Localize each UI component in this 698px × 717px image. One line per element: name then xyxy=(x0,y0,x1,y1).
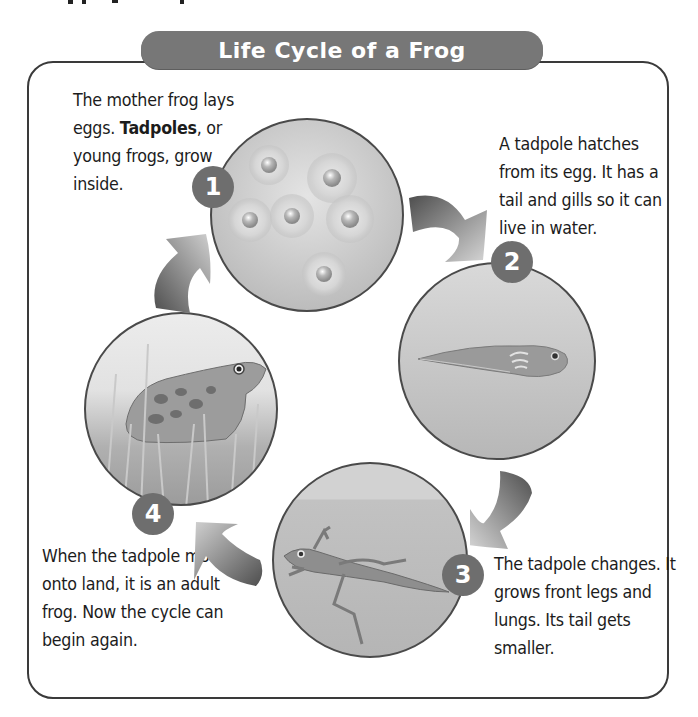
froglet-illustration xyxy=(274,464,468,658)
curved-arrow-icon xyxy=(148,228,238,338)
curved-arrow-icon xyxy=(192,520,272,590)
curved-arrow-icon xyxy=(470,465,540,555)
tadpole-illustration xyxy=(400,264,596,460)
page-title: Life Cycle of a Frog xyxy=(218,38,466,63)
step-4-badge: 4 xyxy=(132,493,174,535)
vocab-term-tadpoles: Tadpoles xyxy=(120,117,197,138)
step-2-caption: A tadpole hatches from its egg. It has a… xyxy=(499,130,671,242)
step-2-image xyxy=(398,262,596,460)
adult-frog-illustration xyxy=(86,314,278,506)
step-1-badge: 1 xyxy=(192,166,234,208)
step-3-image xyxy=(272,462,468,658)
curved-arrow-icon xyxy=(405,190,500,280)
title-banner: Life Cycle of a Frog xyxy=(141,31,543,69)
cut-off-heading-fragment xyxy=(0,0,698,6)
step-3-badge: 3 xyxy=(442,554,484,596)
frog-eggs-illustration xyxy=(212,120,404,312)
step-4-image xyxy=(84,312,278,506)
step-3-caption: The tadpole changes. It grows front legs… xyxy=(494,550,683,662)
step-1-image xyxy=(210,118,404,312)
